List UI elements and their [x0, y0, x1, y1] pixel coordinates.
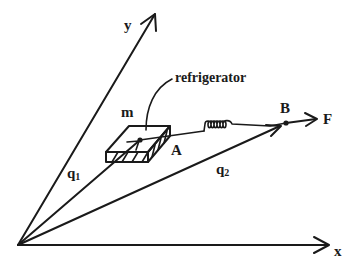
q1-vector [18, 140, 140, 245]
y-axis-label: y [124, 17, 132, 33]
q1-label: q1 [67, 165, 80, 182]
point-b-label: B [280, 100, 290, 116]
connector-line [140, 131, 204, 140]
mass-label: m [121, 104, 134, 120]
force-label: F [323, 111, 332, 127]
y-axis [18, 14, 156, 245]
x-axis [18, 237, 329, 253]
diagram-canvas: x y q1 q2 m A ref [0, 0, 362, 271]
force-vector [286, 113, 317, 126]
x-axis-label: x [334, 243, 342, 259]
point-a-label: A [171, 142, 182, 158]
q2-vector [18, 125, 281, 245]
q2-label: q2 [216, 161, 229, 178]
refrigerator-leader-line [146, 79, 172, 130]
refrigerator-label: refrigerator [175, 70, 246, 85]
